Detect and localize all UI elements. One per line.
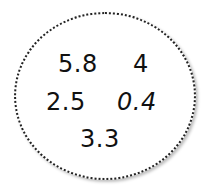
- value-4: 4: [133, 52, 149, 76]
- value-3-3: 3.3: [80, 127, 120, 151]
- value-5-8: 5.8: [58, 52, 98, 76]
- value-0-4: 0.4: [117, 90, 157, 114]
- dotted-ellipse: [14, 12, 196, 180]
- value-2-5: 2.5: [46, 90, 86, 114]
